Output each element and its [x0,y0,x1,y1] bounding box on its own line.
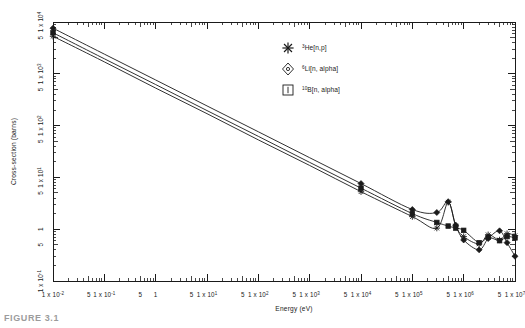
axis-tick-label: 1 x 10-1 [37,269,44,292]
legend-item-0: 3He[n,p] [282,42,326,53]
figure-caption: FIGURE 3.1 [4,313,59,326]
axis-tick-label: 1 x 10-2 [42,291,65,298]
axis-tick-label: 5 [190,291,194,298]
series-2-marker [477,240,482,245]
series-2-marker [486,235,491,240]
legend-label-0: 3He[n,p] [302,44,327,53]
axis-tick-label: 5 [395,291,399,298]
legend-label-1: 6Li[n, alpha] [302,65,338,74]
series-2-marker [513,236,518,241]
series-1-marker [504,240,510,246]
axis-tick-label: 5 [37,243,44,247]
figure-container: 1 x 10-251 x 10-15151 x 10151 x 10251 x … [0,0,525,328]
axis-tick-label: 1 x 101 [37,167,44,188]
axis-tick-label: 5 [37,139,44,143]
series-curve-2 [53,33,515,243]
legend-item-2: 10B[n, alpha] [283,85,340,95]
axis-tick-label: 5 [241,291,245,298]
diamond-icon [283,63,294,75]
series-2-marker [446,224,451,229]
legend-group: 3He[n,p]6Li[n, alpha]10B[n, alpha] [282,42,340,95]
axis-tick-label: 1 x 103 [299,291,320,298]
axis-tick-label: 5 [37,191,44,195]
axis-tick-label: 5 [292,291,296,298]
axis-tick-label: 5 [344,291,348,298]
series-2-marker [51,30,56,35]
series-curve-1 [53,28,515,256]
series-1-marker [434,210,440,216]
series-1-marker [476,247,482,253]
series-2-marker [359,186,364,191]
axis-tick-label: 1 [154,291,158,298]
series-2-marker [435,220,440,225]
legend-label-2: 10B[n, alpha] [302,86,340,95]
series-2-marker [461,228,466,233]
series-2-marker [453,226,458,231]
legend-item-1: 6Li[n, alpha] [283,63,339,75]
series-2-marker [505,234,510,239]
axes-group [53,22,515,281]
tick-labels-group: 1 x 10-251 x 10-15151 x 10151 x 10251 x … [10,11,525,313]
data-curves-group [53,28,515,256]
asterisk-icon [282,42,293,53]
series-2-marker [497,238,502,243]
ticks-group [53,22,515,281]
axis-tick-label: 1 x 102 [37,115,44,136]
cross-section-chart: 1 x 10-251 x 10-15151 x 10151 x 10251 x … [0,0,525,328]
axis-tick-label: 5 [498,291,502,298]
series-0-marker [434,225,440,231]
axis-tick-label: 1 [37,227,44,231]
axis-tick-label: 1 x 106 [453,291,474,298]
axis-tick-label: 1 x 103 [37,63,44,84]
axis-tick-label: 5 [87,291,91,298]
data-markers-group [50,25,518,259]
axis-tick-label: 5 [37,87,44,91]
axis-tick-label: 1 x 102 [248,291,269,298]
series-1-marker [445,199,451,205]
axis-tick-label: 1 x 104 [37,11,44,32]
axis-tick-label: 1 x 107 [505,291,525,298]
series-1-marker [512,253,518,259]
y-axis-title: Cross-section (barns) [10,118,18,185]
axis-tick-label: 5 [138,291,142,298]
axis-tick-label: 1 x 105 [402,291,423,298]
axis-tick-label: 1 x 104 [351,291,372,298]
series-2-marker [410,211,415,216]
axis-tick-label: 5 [446,291,450,298]
x-axis-title: Energy (eV) [275,305,312,313]
axis-tick-label: 1 x 101 [197,291,218,298]
axis-tick-label: 1 x 10-1 [93,291,116,298]
axis-tick-label: 5 [37,35,44,39]
plot-frame [53,22,515,281]
